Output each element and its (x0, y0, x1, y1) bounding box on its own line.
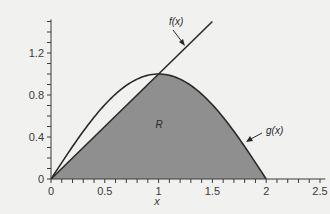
y-tick-label: 0.4 (29, 131, 44, 143)
f-arrow-icon (173, 30, 185, 46)
x-tick-label: 2.5 (312, 185, 327, 197)
x-tick-label: 0 (48, 185, 54, 197)
x-tick-label: 2 (263, 185, 269, 197)
chart: 00.511.522.500.40.81.2 x R f(x) g(x) (0, 0, 330, 214)
f-label: f(x) (169, 16, 183, 27)
g-label: g(x) (266, 125, 283, 136)
x-tick-label: 0.5 (97, 185, 112, 197)
region-label: R (155, 119, 162, 130)
y-tick-label: 0 (38, 173, 44, 185)
g-arrow-icon (246, 133, 262, 142)
y-tick-label: 1.2 (29, 47, 44, 59)
x-tick-label: 1.5 (205, 185, 220, 197)
x-axis-title: x (153, 195, 160, 207)
y-tick-label: 0.8 (29, 89, 44, 101)
